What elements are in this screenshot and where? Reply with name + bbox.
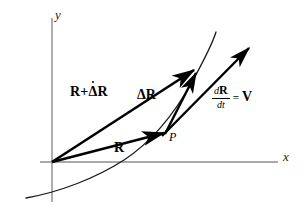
velocity-symbol: V xyxy=(242,90,252,104)
derivative-fraction: dR dt xyxy=(212,84,230,110)
r-plus-dr-delta: Δ xyxy=(89,85,98,99)
r-plus-dr-delta-glyph: Δ xyxy=(89,84,98,99)
derivative-denominator: dt xyxy=(215,100,227,111)
particle-path-curve xyxy=(26,32,216,198)
vector-R xyxy=(52,133,164,162)
point-p-label: P xyxy=(169,131,176,143)
x-axis-label: x xyxy=(283,150,289,163)
vector-diagram-figure: y x P R ΔR R+ΔR dR dt = V xyxy=(0,0,306,220)
velocity-equation-label: dR dt = V xyxy=(212,84,252,110)
r-plus-dr-tail: R xyxy=(97,84,107,99)
vector-R-label: R xyxy=(114,141,124,155)
y-axis-label: y xyxy=(55,8,61,21)
derivative-numerator: dR xyxy=(212,84,230,97)
r-plus-dr-plus-sign: + xyxy=(80,84,88,99)
derivative-vector-R: R xyxy=(219,83,228,97)
vector-R-plus-delta-R-label: R+ΔR xyxy=(70,85,108,99)
vector-delta-R xyxy=(165,73,196,134)
equals-sign: = xyxy=(233,92,239,103)
r-plus-dr-lead: R xyxy=(70,84,80,99)
delta-dot-accent-icon xyxy=(92,81,94,83)
vector-delta-R-label: ΔR xyxy=(137,88,156,102)
diagram-canvas xyxy=(0,0,306,220)
